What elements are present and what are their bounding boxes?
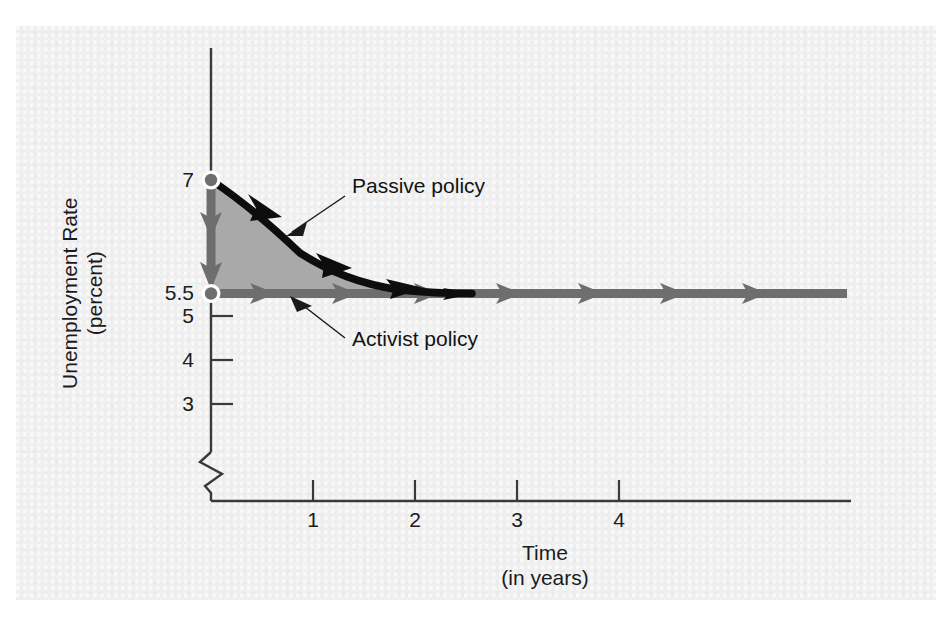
- x-axis-title-line1: Time: [430, 540, 660, 565]
- x-tick-label-1: 1: [293, 508, 333, 532]
- y-tick-label-7: 7: [158, 168, 194, 192]
- y-axis-title: Unemployment Rate (percent): [57, 163, 107, 423]
- y-axis-break-icon: [200, 452, 222, 501]
- passive-policy-leader-arrowhead: [286, 222, 307, 236]
- chart-plot: [0, 0, 952, 617]
- y-tick-label-4: 4: [158, 348, 194, 372]
- y-tick-label-3: 3: [158, 392, 194, 416]
- y-tick-label-5: 5: [158, 304, 194, 328]
- x-tick-label-4: 4: [599, 508, 639, 532]
- x-tick-label-2: 2: [395, 508, 435, 532]
- activist-policy-annotation: Activist policy: [352, 327, 478, 351]
- marker-natural-rate-point-core: [205, 287, 217, 299]
- y-axis-title-line2: (percent): [82, 163, 107, 423]
- passive-policy-leader-line: [292, 196, 345, 232]
- x-tick-label-3: 3: [497, 508, 537, 532]
- x-axis-title-line2: (in years): [430, 565, 660, 590]
- y-tick-label-5-5: 5.5: [142, 281, 194, 305]
- marker-start-point-core: [205, 174, 217, 186]
- passive-policy-annotation: Passive policy: [352, 174, 485, 198]
- y-axis-title-line1: Unemployment Rate: [57, 163, 82, 423]
- chart-page: 7 5.5 5 4 3 1 2 3 4 Passive policy Activ…: [0, 0, 952, 617]
- x-axis-title: Time (in years): [430, 540, 660, 590]
